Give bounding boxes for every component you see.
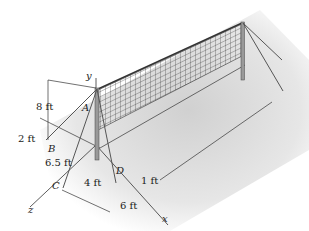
pole-A xyxy=(95,88,99,160)
pole-far xyxy=(241,22,245,80)
label-point-B: B xyxy=(47,143,55,154)
label-point-C: C xyxy=(52,180,60,191)
dim-2ft: 2 ft xyxy=(18,133,35,144)
dim-6ft: 6 ft xyxy=(120,200,137,211)
ground-shading xyxy=(40,10,309,231)
dim-1ft: 1 ft xyxy=(141,175,158,186)
dim-6-5ft: 6.5 ft xyxy=(45,157,72,168)
net-diagram: y x z A B C D 8 ft 2 ft 6.5 ft 4 ft 1 ft… xyxy=(0,0,309,231)
label-point-A: A xyxy=(81,102,89,113)
label-point-D: D xyxy=(115,165,124,176)
label-y-axis: y xyxy=(85,70,92,81)
dim-4ft: 4 ft xyxy=(84,177,101,188)
dim-8ft: 8 ft xyxy=(36,101,53,112)
label-x-axis: x xyxy=(162,213,168,224)
label-z-axis: z xyxy=(27,204,34,215)
